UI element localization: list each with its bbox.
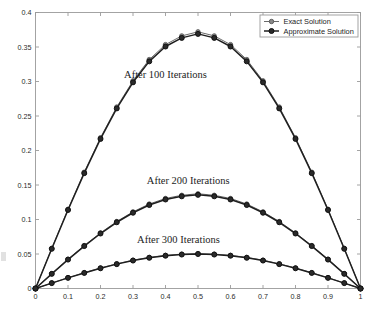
data-point	[163, 44, 168, 49]
x-tick-label: 0.7	[258, 292, 268, 301]
data-point	[358, 286, 363, 291]
data-point	[342, 271, 347, 276]
y-tick-label: 0.2	[22, 146, 32, 155]
data-point	[228, 44, 233, 49]
data-point	[212, 252, 217, 257]
x-tick-label: 0.9	[323, 292, 333, 301]
y-tick-label: 0.05	[18, 250, 32, 259]
data-point	[293, 266, 298, 271]
data-point	[163, 197, 168, 202]
data-point	[342, 281, 347, 286]
y-tick-label: 0.1	[22, 215, 32, 224]
data-point	[179, 35, 184, 40]
line-chart: 00.10.20.30.40.50.60.70.80.9100.050.10.1…	[0, 0, 381, 311]
data-point	[98, 136, 103, 141]
data-point	[309, 171, 314, 176]
data-point	[49, 246, 54, 251]
data-point	[82, 244, 87, 249]
data-point	[342, 246, 347, 251]
data-point	[98, 266, 103, 271]
data-point	[293, 136, 298, 141]
data-point	[131, 258, 136, 263]
legend-label-0: Exact Solution	[284, 17, 331, 26]
data-point	[212, 194, 217, 199]
data-point	[228, 197, 233, 202]
y-tick-label: 0.25	[18, 112, 32, 121]
x-tick-label: 0.4	[161, 292, 171, 301]
data-point	[228, 253, 233, 258]
x-tick-label: 1	[359, 292, 363, 301]
x-tick-label: 0.1	[63, 292, 73, 301]
y-tick-label: 0.35	[18, 43, 32, 52]
x-tick-label: 0.5	[193, 292, 203, 301]
data-point	[261, 80, 266, 85]
data-point	[277, 262, 282, 267]
data-point	[196, 192, 201, 197]
edge-artifact	[1, 252, 6, 261]
x-tick-label: 0.2	[96, 292, 106, 301]
y-tick-label: 0.15	[18, 181, 32, 190]
data-point	[277, 220, 282, 225]
y-tick-label: 0	[28, 284, 32, 293]
data-point	[179, 194, 184, 199]
data-point	[98, 231, 103, 236]
data-point	[244, 59, 249, 64]
y-tick-label: 0.3	[22, 77, 32, 86]
data-point	[131, 210, 136, 215]
y-tick-label: 0.4	[22, 8, 32, 17]
data-point	[66, 257, 71, 262]
x-tick-label: 0.6	[226, 292, 236, 301]
data-point	[293, 231, 298, 236]
x-tick-label: 0	[34, 292, 38, 301]
annotation-2: After 200 Iterations	[147, 175, 230, 186]
data-point	[33, 286, 38, 291]
data-point	[309, 244, 314, 249]
data-point	[147, 203, 152, 208]
data-point	[49, 271, 54, 276]
data-point	[163, 253, 168, 258]
annotation-3: After 300 Iterations	[137, 234, 220, 245]
data-point	[114, 106, 119, 111]
data-point	[114, 262, 119, 267]
x-tick-label: 0.3	[128, 292, 138, 301]
data-point	[147, 255, 152, 260]
data-point	[82, 171, 87, 176]
data-point	[131, 80, 136, 85]
data-point	[261, 258, 266, 263]
data-point	[114, 220, 119, 225]
data-point	[244, 255, 249, 260]
legend-label-1: Approximate Solution	[284, 27, 354, 36]
data-point	[196, 252, 201, 257]
data-point	[147, 59, 152, 64]
data-point	[261, 210, 266, 215]
data-point	[196, 31, 201, 36]
legend-marker-0	[269, 19, 273, 23]
data-point	[49, 281, 54, 286]
data-point	[212, 35, 217, 40]
data-point	[179, 252, 184, 257]
data-point	[244, 203, 249, 208]
annotation-1: After 100 Iterations	[124, 69, 207, 80]
chart-figure: 00.10.20.30.40.50.60.70.80.9100.050.10.1…	[0, 0, 381, 311]
x-tick-label: 0.8	[291, 292, 301, 301]
legend-marker-1	[269, 29, 274, 34]
data-point	[309, 270, 314, 275]
data-point	[66, 207, 71, 212]
data-point	[326, 257, 331, 262]
data-point	[82, 270, 87, 275]
data-point	[326, 275, 331, 280]
data-point	[277, 106, 282, 111]
data-point	[326, 207, 331, 212]
data-point	[66, 275, 71, 280]
